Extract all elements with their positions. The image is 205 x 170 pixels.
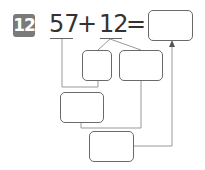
split-box-ones[interactable] xyxy=(119,50,163,81)
partial-sum-box[interactable] xyxy=(60,92,104,123)
split-box-tens[interactable] xyxy=(82,50,112,81)
result-answer-box[interactable] xyxy=(148,10,193,41)
final-sum-box[interactable] xyxy=(89,131,134,162)
arrow-up-icon xyxy=(169,40,175,47)
